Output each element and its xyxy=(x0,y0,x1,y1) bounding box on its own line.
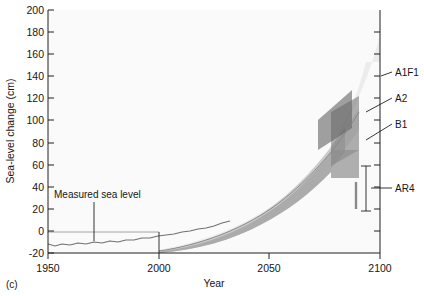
y-tick-label-120: 120 xyxy=(26,92,44,104)
series-label-b1: B1 xyxy=(395,119,408,130)
figure-panel: 200 180 160 140 120 100 80 60 40 20 0 -2… xyxy=(0,0,424,296)
series-label-ar4: AR4 xyxy=(395,183,415,194)
y-tick-label-180: 180 xyxy=(26,26,44,38)
annotation-measured-sea-level-text: Measured sea level xyxy=(54,189,141,200)
sea-level-projection-chart: 200 180 160 140 120 100 80 60 40 20 0 -2… xyxy=(0,0,424,296)
y-axis-title: Sea-level change (cm) xyxy=(4,78,16,183)
connector-a1f1 xyxy=(381,72,392,76)
x-tick-label-2100: 2100 xyxy=(368,262,392,274)
y-tick-label-140: 140 xyxy=(26,70,44,82)
x-tick-label-1950: 1950 xyxy=(36,262,60,274)
y-tick-label-0: 0 xyxy=(38,225,44,237)
y-tick-label-100: 100 xyxy=(26,114,44,126)
y-tick-label-80: 80 xyxy=(32,137,44,149)
y-tick-label-40: 40 xyxy=(32,181,44,193)
y-tick-label-neg20: -20 xyxy=(29,247,44,259)
terminal-block-b1 xyxy=(331,150,359,178)
x-axis-title: Year xyxy=(203,277,225,289)
x-tick-label-2000: 2000 xyxy=(147,262,171,274)
y-tick-label-20: 20 xyxy=(32,203,44,215)
y-tick-label-200: 200 xyxy=(26,4,44,16)
panel-label: (c) xyxy=(6,279,18,290)
x-axis-ticks xyxy=(48,253,380,259)
y-tick-label-60: 60 xyxy=(32,159,44,171)
y-tick-label-160: 160 xyxy=(26,48,44,60)
series-label-a2: A2 xyxy=(395,93,408,104)
series-label-a1f1: A1F1 xyxy=(395,67,419,78)
x-tick-label-2050: 2050 xyxy=(257,262,281,274)
